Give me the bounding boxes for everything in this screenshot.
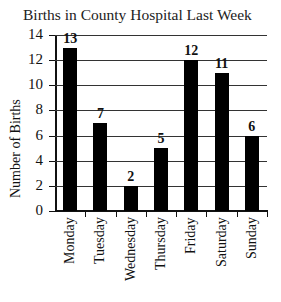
plot-area: 024681012141372512116 [55, 35, 267, 211]
data-label: 7 [85, 106, 115, 122]
data-label: 6 [237, 119, 267, 135]
y-tick [49, 161, 55, 162]
x-tick [85, 211, 86, 217]
y-tick [49, 85, 55, 86]
y-tick-label: 4 [23, 153, 43, 168]
x-tick [206, 211, 207, 217]
data-label: 11 [207, 56, 237, 72]
x-category-label: Friday [183, 217, 199, 254]
bar-wednesday [124, 186, 138, 211]
y-tick [49, 136, 55, 137]
x-category-label: Thursday [153, 217, 169, 270]
y-tick [49, 211, 55, 212]
gridline [55, 85, 267, 86]
data-label: 13 [55, 31, 85, 47]
data-label: 2 [116, 169, 146, 185]
data-label: 12 [176, 43, 206, 59]
y-tick-label: 6 [23, 128, 43, 143]
y-tick [49, 110, 55, 111]
chart-title: Births in County Hospital Last Week [23, 6, 252, 24]
y-tick-label: 0 [23, 203, 43, 218]
x-tick [267, 211, 268, 217]
bar-tuesday [93, 123, 107, 211]
x-category-label: Tuesday [92, 217, 108, 264]
x-tick [116, 211, 117, 217]
bar-sunday [245, 136, 259, 211]
y-tick-label: 12 [23, 52, 43, 67]
bar-thursday [154, 148, 168, 211]
x-tick [146, 211, 147, 217]
x-tick [237, 211, 238, 217]
x-tick [176, 211, 177, 217]
x-category-label: Sunday [244, 217, 260, 259]
bar-saturday [215, 73, 229, 211]
x-category-label: Monday [62, 217, 78, 264]
y-tick-label: 10 [23, 77, 43, 92]
y-tick-label: 2 [23, 178, 43, 193]
y-tick [49, 186, 55, 187]
y-tick [49, 60, 55, 61]
y-tick-label: 8 [23, 102, 43, 117]
y-tick-label: 14 [23, 27, 43, 42]
bar-monday [63, 48, 77, 211]
x-category-label: Saturday [214, 217, 230, 267]
x-category-label: Wednesday [123, 217, 139, 281]
bar-friday [184, 60, 198, 211]
y-tick [49, 35, 55, 36]
gridline [55, 35, 267, 36]
y-axis-title: Number of Births [8, 99, 24, 198]
data-label: 5 [146, 131, 176, 147]
